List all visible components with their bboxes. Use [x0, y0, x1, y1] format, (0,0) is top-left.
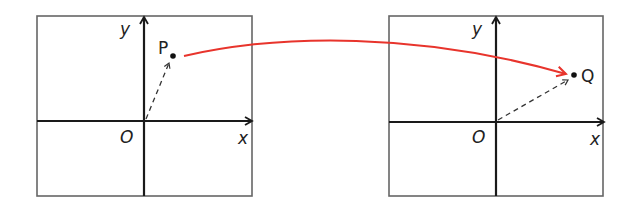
point-p-dot [170, 53, 176, 59]
left-origin-label: O [120, 127, 133, 147]
vector-op-arrow [146, 63, 169, 119]
point-p-label: P [158, 38, 168, 58]
right-origin-label: O [472, 127, 485, 147]
vector-oq-arrow [498, 80, 568, 120]
mapping-diagram: y x O P y x O Q [0, 0, 638, 209]
point-q-label: Q [581, 66, 594, 86]
right-x-axis-label: x [589, 129, 601, 149]
left-x-axis-label: x [237, 128, 249, 148]
left-coordinate-plane: y x O P [37, 16, 252, 196]
right-y-axis-label: y [471, 19, 483, 39]
right-coordinate-plane: y x O Q [389, 16, 604, 196]
mapping-arrow-p-to-q [184, 41, 566, 74]
left-y-axis-label: y [119, 19, 131, 39]
point-q-dot [571, 72, 577, 78]
